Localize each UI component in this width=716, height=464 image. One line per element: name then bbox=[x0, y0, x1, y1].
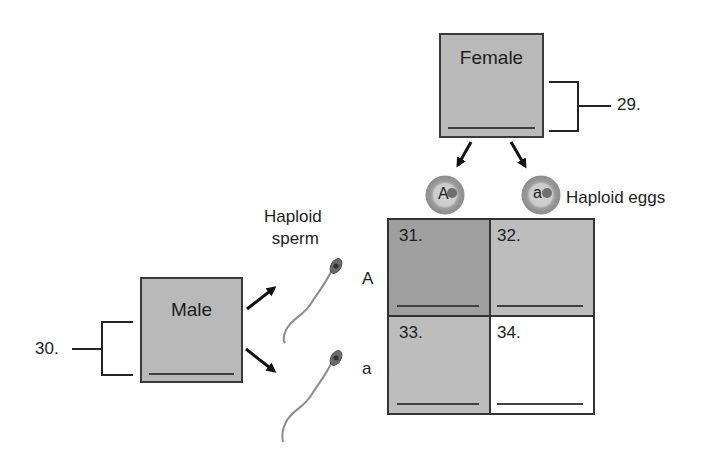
punnett-cell-33: 33. bbox=[389, 317, 491, 413]
cell-33-blank bbox=[397, 403, 479, 405]
question-30-label: 30. bbox=[35, 339, 59, 359]
female-title: Female bbox=[441, 47, 542, 69]
egg-allele-a: a bbox=[533, 184, 542, 202]
punnett-cell-32: 32. bbox=[491, 220, 593, 317]
punnett-cell-31: 31. bbox=[389, 220, 491, 317]
punnett-square: 31. 32. 33. 34. bbox=[387, 218, 595, 415]
cell-32-number: 32. bbox=[497, 226, 521, 246]
punnett-cell-34: 34. bbox=[491, 317, 593, 413]
haploid-sperm-line2: sperm bbox=[264, 228, 322, 250]
male-genotype-blank bbox=[149, 373, 234, 375]
haploid-eggs-label: Haploid eggs bbox=[566, 188, 665, 208]
haploid-sperm-label: Haploid sperm bbox=[264, 206, 322, 250]
cell-33-number: 33. bbox=[399, 323, 423, 343]
sperm-allele-a: a bbox=[362, 359, 371, 379]
male-arrows bbox=[246, 288, 274, 371]
bracket-29 bbox=[549, 82, 611, 131]
cell-32-blank bbox=[497, 305, 583, 307]
diagram-lines bbox=[0, 0, 716, 464]
egg-allele-A: A bbox=[438, 185, 449, 203]
haploid-sperm-line1: Haploid bbox=[264, 206, 322, 228]
bracket-30 bbox=[72, 322, 133, 375]
cell-31-number: 31. bbox=[399, 226, 423, 246]
male-title: Male bbox=[142, 299, 241, 321]
sperm-a-icon bbox=[282, 349, 344, 442]
male-parent-box: Male bbox=[140, 277, 243, 383]
cell-34-blank bbox=[497, 403, 583, 405]
cell-34-number: 34. bbox=[497, 323, 521, 343]
sperm-A-icon bbox=[284, 257, 345, 343]
female-genotype-blank bbox=[448, 127, 535, 129]
sperm-allele-A: A bbox=[362, 269, 373, 289]
female-arrows bbox=[458, 142, 525, 166]
question-29-label: 29. bbox=[617, 95, 641, 115]
female-parent-box: Female bbox=[439, 33, 544, 138]
cell-31-blank bbox=[397, 305, 479, 307]
